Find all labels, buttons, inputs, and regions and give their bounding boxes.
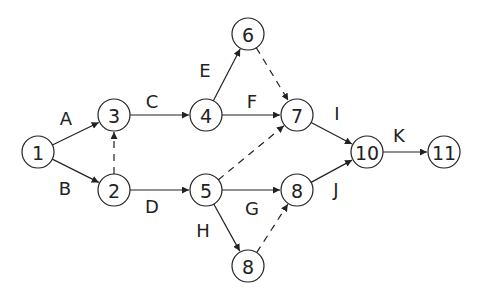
activity-label-g: G (245, 198, 259, 219)
node-label: 1 (32, 142, 44, 164)
node-label: 3 (108, 105, 120, 127)
activity-arrow-h (214, 204, 240, 251)
event-node-n4: 4 (190, 99, 222, 131)
event-node-n2: 2 (98, 174, 130, 206)
node-label: 5 (200, 180, 212, 202)
node-label: 10 (355, 142, 379, 164)
activity-label-c: C (146, 91, 159, 112)
activity-label-d: D (145, 196, 159, 217)
event-node-n7: 7 (281, 99, 313, 131)
event-node-n6: 6 (232, 18, 264, 50)
node-label: 11 (432, 142, 456, 164)
node-label: 4 (200, 105, 212, 127)
node-label: 2 (108, 180, 120, 202)
activity-label-b: B (59, 178, 71, 199)
node-label: 6 (242, 24, 254, 46)
activity-arrow-e (213, 49, 240, 101)
activity-label-a: A (60, 108, 73, 129)
dummy-activity-arrow-8-8 (257, 204, 288, 252)
activity-label-h: H (196, 220, 210, 241)
event-node-n5: 5 (190, 174, 222, 206)
node-label: 7 (291, 105, 303, 127)
event-node-n8a: 8 (281, 174, 313, 206)
event-node-n1: 1 (22, 136, 54, 168)
activity-label-k: K (393, 125, 406, 146)
activity-label-j: J (332, 179, 338, 200)
activity-label-i: I (334, 103, 339, 124)
activity-arrow-j (311, 160, 352, 182)
network-diagram: ABCDEFGHIJK 1234567881011 (0, 0, 479, 300)
node-label: 8 (291, 180, 303, 202)
event-node-n11: 11 (428, 136, 460, 168)
event-node-n8b: 8 (232, 250, 264, 282)
event-node-n3: 3 (98, 99, 130, 131)
node-label: 8 (242, 256, 254, 278)
activity-label-f: F (247, 91, 257, 112)
dummy-activity-arrow-6-7 (256, 48, 288, 101)
event-node-n10: 10 (351, 136, 383, 168)
activity-arrow-i (311, 122, 352, 144)
dummy-activity-arrow-5-7 (218, 126, 284, 180)
activity-label-e: E (199, 60, 210, 81)
nodes-layer: 1234567881011 (22, 18, 460, 282)
